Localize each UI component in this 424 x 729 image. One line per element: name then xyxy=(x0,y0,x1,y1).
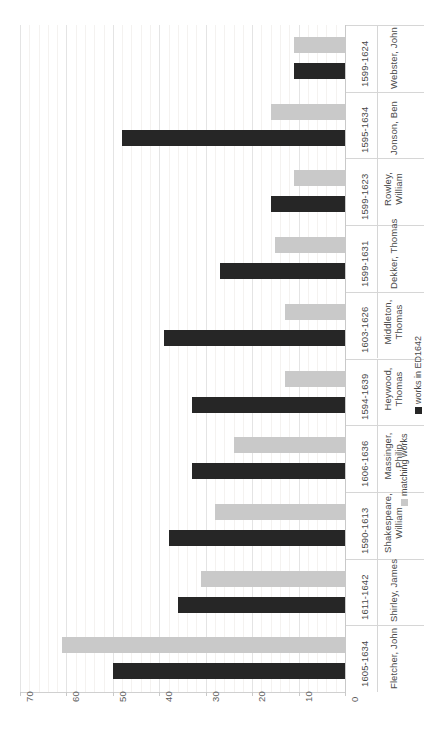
axis-tick xyxy=(159,692,160,696)
bar-works-in-ed1642 xyxy=(271,196,345,212)
bar-works-in-ed1642 xyxy=(178,597,345,613)
legend-label: works in ED1642 xyxy=(413,336,423,404)
value-axis-line xyxy=(20,692,346,693)
category-years-label: 1590-1613 xyxy=(359,507,370,553)
bar-matching-works xyxy=(294,170,345,186)
category-cell-divider xyxy=(377,293,378,359)
category-cell-divider xyxy=(377,493,378,559)
category-cell-divider xyxy=(377,93,378,159)
category-cell-divider xyxy=(377,426,378,492)
gridline-minor xyxy=(215,25,216,692)
category-years-label: 1611-1642 xyxy=(359,575,370,621)
gridline-minor xyxy=(224,25,225,692)
bar-matching-works xyxy=(285,304,345,320)
gridline-minor xyxy=(196,25,197,692)
gridline-minor xyxy=(104,25,105,692)
axis-tick-label: 0 xyxy=(349,697,360,702)
axis-tick xyxy=(252,692,253,696)
category-axis-cell: 1599-1623Rowley, William xyxy=(346,158,424,225)
category-years-label: 1599-1623 xyxy=(359,174,370,220)
gridline-minor xyxy=(131,25,132,692)
gridline-major xyxy=(113,25,114,692)
category-name-label: Shirley, James xyxy=(388,559,399,622)
gridline-major xyxy=(206,25,207,692)
gridline-minor xyxy=(76,25,77,692)
legend-item: works in ED1642 xyxy=(413,336,423,414)
bar-matching-works xyxy=(275,237,345,253)
light-square-icon xyxy=(401,499,408,506)
category-years-label: 1594-1639 xyxy=(359,374,370,420)
legend-item: matching works xyxy=(399,433,409,506)
category-years-label: 1606-1636 xyxy=(359,441,370,487)
axis-tick xyxy=(20,692,21,696)
category-name-label: Webster, John xyxy=(388,27,399,89)
bar-matching-works xyxy=(294,37,345,53)
bar-matching-works xyxy=(234,437,345,453)
category-cell-divider xyxy=(377,159,378,225)
gridline-minor xyxy=(57,25,58,692)
bar-works-in-ed1642 xyxy=(122,130,345,146)
gridline-minor xyxy=(308,25,309,692)
axis-tick-label: 20 xyxy=(256,691,267,702)
axis-tick xyxy=(66,692,67,696)
category-years-label: 1595-1634 xyxy=(359,107,370,153)
bar-works-in-ed1642 xyxy=(113,663,345,679)
bar-matching-works xyxy=(201,571,345,587)
bar-chart: 706050403020100 1599-1624Webster, John15… xyxy=(0,0,424,729)
plot-area xyxy=(20,25,345,692)
gridline-major xyxy=(252,25,253,692)
axis-tick xyxy=(113,692,114,696)
gridline-major xyxy=(66,25,67,692)
gridline-minor xyxy=(150,25,151,692)
category-axis-cell: 1599-1631Dekker, Thomas xyxy=(346,225,424,292)
bar-matching-works xyxy=(62,637,345,653)
axis-tick-label: 70 xyxy=(24,691,35,702)
axis-tick xyxy=(345,692,346,696)
category-years-label: 1599-1631 xyxy=(359,240,370,286)
dark-square-icon xyxy=(415,407,422,414)
category-years-label: 1603-1626 xyxy=(359,307,370,353)
gridline-minor xyxy=(187,25,188,692)
gridline-minor xyxy=(243,25,244,692)
category-cell-divider xyxy=(377,226,378,292)
category-axis-cell: 1605-1634Fletcher, John xyxy=(346,625,424,692)
category-name-label: Dekker, Thomas xyxy=(388,218,399,288)
bar-works-in-ed1642 xyxy=(192,397,345,413)
axis-tick-label: 60 xyxy=(70,691,81,702)
bar-works-in-ed1642 xyxy=(169,530,345,546)
gridline-major xyxy=(299,25,300,692)
axis-tick-label: 50 xyxy=(117,691,128,702)
gridline-minor xyxy=(169,25,170,692)
gridline-minor xyxy=(336,25,337,692)
bar-matching-works xyxy=(271,104,345,120)
category-cell-divider xyxy=(377,360,378,426)
gridline-minor xyxy=(280,25,281,692)
axis-tick-label: 30 xyxy=(210,691,221,702)
bar-matching-works xyxy=(215,504,345,520)
axis-tick xyxy=(299,692,300,696)
gridline-minor xyxy=(122,25,123,692)
chart-legend: works in ED1642matching works xyxy=(397,296,423,506)
gridline-minor xyxy=(261,25,262,692)
gridline-minor xyxy=(39,25,40,692)
gridline-minor xyxy=(48,25,49,692)
gridline-minor xyxy=(234,25,235,692)
gridline-minor xyxy=(317,25,318,692)
category-axis-cell: 1595-1634Jonson, Ben xyxy=(346,92,424,159)
gridline-minor xyxy=(141,25,142,692)
category-name-label: Rowley, William xyxy=(382,156,404,222)
legend-label: matching works xyxy=(399,433,409,496)
category-name-label: Fletcher, John xyxy=(388,628,399,689)
bar-works-in-ed1642 xyxy=(192,463,345,479)
axis-tick-label: 10 xyxy=(303,691,314,702)
category-axis-cell: 1611-1642Shirley, James xyxy=(346,559,424,626)
bar-works-in-ed1642 xyxy=(164,330,345,346)
gridline-minor xyxy=(271,25,272,692)
category-years-label: 1599-1624 xyxy=(359,40,370,86)
gridline-major xyxy=(20,25,21,692)
category-cell-divider xyxy=(377,26,378,92)
category-name-label: Jonson, Ben xyxy=(388,101,399,155)
axis-tick xyxy=(206,692,207,696)
category-cell-divider xyxy=(377,626,378,692)
gridline-minor xyxy=(178,25,179,692)
